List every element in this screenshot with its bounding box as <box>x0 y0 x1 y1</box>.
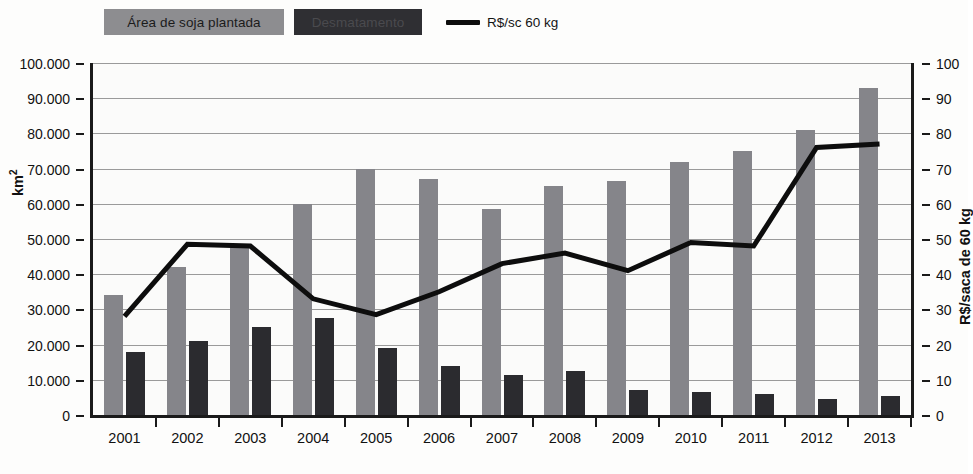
y-axis-left-tickmark <box>76 133 84 135</box>
y-axis-left-tick-label: 80.000 <box>27 126 70 142</box>
x-axis: 2001200220032004200520062007200820092010… <box>90 418 914 452</box>
x-axis-tickmark <box>218 418 220 427</box>
y-axis-left-tickmark <box>76 239 84 241</box>
y-axis-left-tickmark <box>76 274 84 276</box>
x-axis-tick-label-2006: 2006 <box>423 430 455 446</box>
y-axis-right-tickmark <box>922 239 930 241</box>
x-axis-tickmark <box>784 418 786 427</box>
y-axis-right-tickmark <box>922 133 930 135</box>
legend-label-soja: Área de soja plantada <box>127 15 260 30</box>
x-axis-tick-label-2001: 2001 <box>108 430 140 446</box>
y-axis-right-tick-label: 70 <box>936 162 952 178</box>
y-axis-right-tick-label: 100 <box>936 56 959 72</box>
x-axis-tick-label-2010: 2010 <box>675 430 707 446</box>
y-axis-right-tickmark <box>922 98 930 100</box>
y-axis-right-tick-label: 80 <box>936 126 952 142</box>
y-axis-left-tick-label: 10.000 <box>27 373 70 389</box>
x-axis-tickmark <box>595 418 597 427</box>
y-axis-right-tick-label: 40 <box>936 267 952 283</box>
y-axis-left-tickmark <box>76 380 84 382</box>
y-axis-right-tick-label: 20 <box>936 338 952 354</box>
price-line-path <box>124 144 879 316</box>
x-axis-tick-label-2002: 2002 <box>171 430 203 446</box>
y-axis-left-tick-label: 60.000 <box>27 197 70 213</box>
x-axis-tick-label-2013: 2013 <box>863 430 895 446</box>
y-axis-left-tick-label: 30.000 <box>27 302 70 318</box>
y-axis-right-tickmark <box>922 204 930 206</box>
x-axis-tick-label-2004: 2004 <box>297 430 329 446</box>
y-axis-right-tickmark <box>922 169 930 171</box>
y-axis-right-tick-label: 90 <box>936 91 952 107</box>
y-axis-left-tick-label: 90.000 <box>27 91 70 107</box>
x-axis-tickmark <box>155 418 157 427</box>
y-axis-right-tick-label: 60 <box>936 197 952 213</box>
y-axis-left-tickmark <box>76 415 84 417</box>
x-axis-tick-label-2008: 2008 <box>549 430 581 446</box>
x-axis-tick-label-2005: 2005 <box>360 430 392 446</box>
x-axis-tickmark <box>658 418 660 427</box>
y-axis-right-tickmark <box>922 274 930 276</box>
legend-item-desmatamento: Desmatamento <box>294 9 422 35</box>
y-axis-left-tick-label: 70.000 <box>27 162 70 178</box>
x-axis-tickmark <box>847 418 849 427</box>
y-axis-left-tickmark <box>76 309 84 311</box>
x-axis-tick-label-2007: 2007 <box>486 430 518 446</box>
y-axis-left-tickmark <box>76 204 84 206</box>
y-axis-right-tickmark <box>922 63 930 65</box>
y-axis-right-tick-label: 0 <box>936 408 944 424</box>
y-axis-right-title: R$/saca de 60 kg <box>957 208 973 325</box>
legend-label-desmatamento: Desmatamento <box>312 15 405 30</box>
y-axis-right-tickmark <box>922 309 930 311</box>
y-axis-left-tick-label: 100.000 <box>19 56 70 72</box>
legend-label-line: R$/sc 60 kg <box>487 15 558 30</box>
plot-area <box>90 63 914 418</box>
x-axis-tickmark <box>344 418 346 427</box>
y-axis-left-tick-label: 20.000 <box>27 338 70 354</box>
x-axis-tickmark <box>910 418 912 427</box>
line-series-layer <box>93 63 911 415</box>
y-axis-right-tickmark <box>922 415 930 417</box>
x-axis-tickmark <box>470 418 472 427</box>
x-axis-tick-label-2011: 2011 <box>738 430 769 446</box>
y-axis-right-tickmark <box>922 345 930 347</box>
y-axis-left-tick-label: 0 <box>62 408 70 424</box>
y-axis-left-title: km2 <box>8 169 26 196</box>
y-axis-left-tick-label: 40.000 <box>27 267 70 283</box>
y-axis-left-tick-label: 50.000 <box>27 232 70 248</box>
y-axis-right-tick-label: 30 <box>936 302 952 318</box>
legend-line-swatch-icon <box>446 20 480 25</box>
x-axis-tickmark <box>532 418 534 427</box>
y-axis-left-tickmark <box>76 169 84 171</box>
y-axis-left-tickmark <box>76 98 84 100</box>
legend-item-area-de-soja-plantada: Área de soja plantada <box>104 9 284 35</box>
y-axis-right-tickmark <box>922 380 930 382</box>
x-axis-tickmark <box>407 418 409 427</box>
x-axis-tick-label-2012: 2012 <box>800 430 832 446</box>
legend-item-preco-linha: R$/sc 60 kg <box>446 15 558 30</box>
x-axis-tickmark <box>721 418 723 427</box>
y-axis-right: 0102030405060708090100 <box>922 63 962 415</box>
x-axis-tick-label-2009: 2009 <box>612 430 644 446</box>
y-axis-right-tick-label: 10 <box>936 373 952 389</box>
y-axis-left-tickmark <box>76 63 84 65</box>
x-axis-tick-label-2003: 2003 <box>234 430 266 446</box>
chart-legend: Área de soja plantada Desmatamento R$/sc… <box>104 9 558 35</box>
x-axis-tickmark <box>281 418 283 427</box>
y-axis-right-tick-label: 50 <box>936 232 952 248</box>
y-axis-left-tickmark <box>76 345 84 347</box>
y-axis-left: 010.00020.00030.00040.00050.00060.00070.… <box>0 63 84 415</box>
